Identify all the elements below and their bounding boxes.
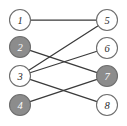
- graph-node-2[interactable]: 2: [10, 37, 31, 58]
- node-label-6: 6: [104, 43, 110, 54]
- node-label-5: 5: [104, 15, 109, 26]
- node-label-4: 4: [17, 100, 23, 111]
- graph-node-8[interactable]: 8: [97, 95, 118, 116]
- graph-canvas: 12345678: [0, 0, 127, 126]
- node-label-3: 3: [16, 71, 22, 82]
- edges-layer: [29, 20, 98, 102]
- bipartite-graph-figure: 12345678: [0, 0, 127, 126]
- node-label-7: 7: [104, 71, 110, 82]
- graph-edge-3-5: [29, 26, 98, 71]
- graph-node-1[interactable]: 1: [10, 10, 31, 31]
- graph-node-4[interactable]: 4: [10, 95, 31, 116]
- graph-node-3[interactable]: 3: [10, 66, 31, 87]
- node-label-8: 8: [104, 100, 110, 111]
- graph-node-5[interactable]: 5: [97, 10, 118, 31]
- node-label-2: 2: [17, 42, 23, 53]
- graph-node-6[interactable]: 6: [97, 38, 118, 59]
- graph-node-7[interactable]: 7: [97, 66, 118, 87]
- node-label-1: 1: [17, 15, 22, 26]
